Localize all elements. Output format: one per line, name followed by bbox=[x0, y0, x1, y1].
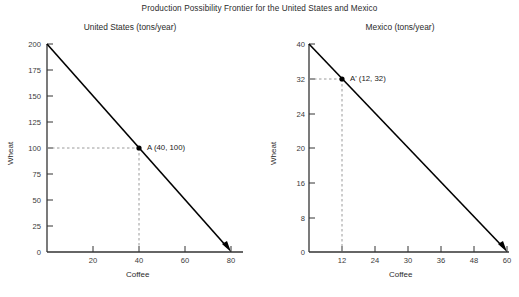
chart-mexico: 40 32 24 20 16 8 0 12 24 30 36 48 60 A' … bbox=[259, 30, 519, 270]
y-tick-label-us-125: 125 bbox=[8, 118, 41, 127]
x-tick-label-mx-60: 60 bbox=[492, 256, 519, 265]
y-axis-title-mx: Wheat bbox=[269, 142, 278, 165]
x-tick-label-us-80: 80 bbox=[216, 256, 246, 265]
ppf-line-united-states bbox=[47, 44, 227, 247]
guide-lines-point-a bbox=[47, 148, 139, 252]
y-tick-label-us-75: 75 bbox=[8, 170, 41, 179]
x-axis-title-mx: Coffee bbox=[389, 270, 412, 279]
y-tick-label-us-200: 200 bbox=[8, 40, 41, 49]
x-axis-title-us: Coffee bbox=[126, 270, 149, 279]
y-tick-marks bbox=[309, 44, 315, 218]
data-point-a bbox=[136, 145, 141, 150]
axes-united-states bbox=[47, 44, 243, 252]
ppf-line-mexico bbox=[309, 44, 503, 247]
x-tick-label-mx-36: 36 bbox=[426, 256, 456, 265]
y-tick-label-us-0: 0 bbox=[8, 248, 41, 257]
x-tick-marks bbox=[342, 246, 507, 252]
point-label-a: A (40, 100) bbox=[147, 143, 185, 152]
y-tick-label-mx-40: 40 bbox=[273, 40, 305, 49]
x-tick-label-mx-48: 48 bbox=[459, 256, 489, 265]
x-tick-label-us-60: 60 bbox=[170, 256, 200, 265]
y-tick-label-us-25: 25 bbox=[8, 222, 41, 231]
y-tick-label-mx-24: 24 bbox=[273, 110, 305, 119]
y-tick-label-us-175: 175 bbox=[8, 66, 41, 75]
y-tick-label-mx-8: 8 bbox=[273, 214, 305, 223]
y-tick-label-mx-16: 16 bbox=[273, 179, 305, 188]
figure-title: Production Possibility Frontier for the … bbox=[0, 4, 519, 13]
guide-lines-point-a-prime bbox=[309, 79, 342, 252]
x-tick-marks bbox=[93, 246, 231, 252]
x-tick-label-mx-30: 30 bbox=[393, 256, 423, 265]
y-tick-label-mx-32: 32 bbox=[273, 75, 305, 84]
chart-united-states: 200 175 150 125 100 75 50 25 0 20 40 60 … bbox=[0, 30, 260, 270]
figure-container: Production Possibility Frontier for the … bbox=[0, 0, 519, 297]
y-tick-label-mx-0: 0 bbox=[273, 248, 305, 257]
y-tick-label-us-50: 50 bbox=[8, 196, 41, 205]
x-tick-label-mx-12: 12 bbox=[327, 256, 357, 265]
y-tick-label-us-150: 150 bbox=[8, 92, 41, 101]
data-point-a-prime bbox=[339, 76, 344, 81]
y-axis-title-us: Wheat bbox=[6, 142, 15, 165]
x-tick-label-us-20: 20 bbox=[78, 256, 108, 265]
x-tick-label-us-40: 40 bbox=[124, 256, 154, 265]
y-tick-marks bbox=[47, 44, 53, 226]
point-label-a-prime: A' (12, 32) bbox=[350, 74, 386, 83]
x-tick-label-mx-24: 24 bbox=[360, 256, 390, 265]
